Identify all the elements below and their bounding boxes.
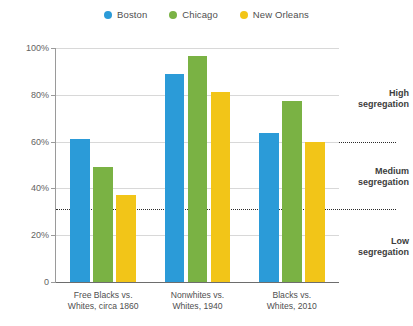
bar-boston-group-1[interactable] xyxy=(70,139,90,282)
category-label-2: Nonwhites vs. Whites, 1940 xyxy=(150,290,244,312)
bar-new-orleans-group-3[interactable] xyxy=(305,142,325,282)
legend-label: Chicago xyxy=(182,9,218,20)
bar-chicago-group-2[interactable] xyxy=(188,56,208,282)
legend-label: Boston xyxy=(117,9,147,20)
circle-marker-icon xyxy=(240,11,248,19)
legend-item-chicago[interactable]: Chicago xyxy=(169,9,218,20)
bar-boston-group-2[interactable] xyxy=(165,74,185,282)
legend-item-boston[interactable]: Boston xyxy=(104,9,147,20)
y-tick-label-100pct: 100% xyxy=(26,43,49,53)
chart-legend: BostonChicagoNew Orleans xyxy=(0,9,413,20)
y-tick-mark xyxy=(51,282,56,283)
category-label-3: Blacks vs. Whites, 2010 xyxy=(245,290,339,312)
bar-chicago-group-1[interactable] xyxy=(93,167,113,282)
medium-segregation-label: Medium segregation xyxy=(335,166,409,188)
y-tick-label-0: 0 xyxy=(44,277,49,287)
bar-boston-group-3[interactable] xyxy=(259,133,279,282)
y-tick-label-80pct: 80% xyxy=(31,90,49,100)
plot-area xyxy=(56,48,339,282)
low-segregation-label: Low segregation xyxy=(335,236,409,258)
legend-item-new-orleans[interactable]: New Orleans xyxy=(240,9,309,20)
x-axis-line xyxy=(55,282,339,283)
bar-new-orleans-group-1[interactable] xyxy=(116,195,136,282)
circle-marker-icon xyxy=(169,11,177,19)
y-tick-label-60pct: 60% xyxy=(31,137,49,147)
category-label-1: Free Blacks vs. Whites, circa 1860 xyxy=(56,290,150,312)
bar-new-orleans-group-2[interactable] xyxy=(211,92,231,282)
circle-marker-icon xyxy=(104,11,112,19)
y-tick-label-40pct: 40% xyxy=(31,183,49,193)
legend-label: New Orleans xyxy=(253,9,309,20)
high-segregation-label: High segregation xyxy=(335,88,409,110)
gridline xyxy=(56,48,339,49)
y-tick-label-20pct: 20% xyxy=(31,230,49,240)
segregation-bar-chart: BostonChicagoNew Orleans 020%40%60%80%10… xyxy=(0,0,413,326)
bar-chicago-group-3[interactable] xyxy=(282,101,302,282)
